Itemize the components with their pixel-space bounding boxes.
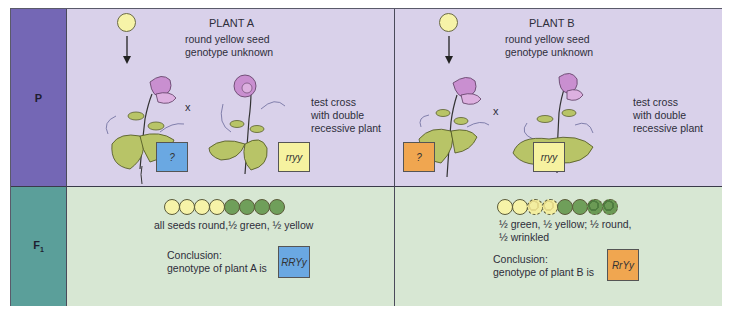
yellow-round-seed-icon <box>179 199 195 215</box>
plant-a-conclusion-2: genotype of plant A is <box>167 262 267 275</box>
yellow-round-seed-icon <box>209 199 225 215</box>
genotype-b-result-box: RrYy <box>607 249 639 281</box>
yellow-seed-icon <box>439 13 458 32</box>
green-round-seed-icon <box>269 199 285 215</box>
plant-a-f1-cell: all seeds round,½ green, ½ yellow Conclu… <box>67 186 394 306</box>
cross-symbol-a: x <box>185 101 191 114</box>
green-wrinkled-seed-icon <box>587 199 603 215</box>
yellow-wrinkled-seed-icon <box>542 199 558 215</box>
plant-a-title: PLANT A <box>209 17 254 30</box>
down-arrow-icon <box>444 36 454 66</box>
plant-b-test-1: test cross <box>633 96 678 109</box>
plant-b-test-2: with double <box>633 109 686 122</box>
row-label-f1: F1 <box>11 186 67 306</box>
f1-subscript: 1 <box>40 247 44 254</box>
plant-b-test-3: recessive plant <box>633 122 703 135</box>
plant-a-f1-seeds <box>164 199 284 215</box>
recessive-genotype-b-box: rryy <box>533 142 565 172</box>
plant-b-parent-cell: PLANT B round yellow seed genotype unkno… <box>394 9 722 186</box>
f1-letter: F <box>33 239 40 251</box>
plant-b-f1-result-2: ½ wrinkled <box>499 231 549 244</box>
plant-a-desc-1: round yellow seed <box>185 33 270 46</box>
plant-a-test-1: test cross <box>311 96 356 109</box>
yellow-round-seed-icon <box>497 199 513 215</box>
plant-a-parent-cell: PLANT A round yellow seed genotype unkno… <box>67 9 394 186</box>
plant-a-conclusion-1: Conclusion: <box>167 249 222 262</box>
plant-b-f1-result-1: ½ green, ½ yellow; ½ round, <box>499 218 632 231</box>
plant-a-test-3: recessive plant <box>311 122 381 135</box>
yellow-round-seed-icon <box>512 199 528 215</box>
green-round-seed-icon <box>224 199 240 215</box>
plant-b-desc-2: genotype unknown <box>505 46 593 59</box>
green-round-seed-icon <box>557 199 573 215</box>
down-arrow-icon <box>122 36 132 66</box>
plant-a-desc-2: genotype unknown <box>185 46 273 59</box>
plant-b-f1-cell: ½ green, ½ yellow; ½ round, ½ wrinkled C… <box>394 186 722 306</box>
plant-a-test-2: with double <box>311 109 364 122</box>
green-round-seed-icon <box>572 199 588 215</box>
parent-label-text: P <box>35 92 42 104</box>
green-round-seed-icon <box>254 199 270 215</box>
green-wrinkled-seed-icon <box>602 199 618 215</box>
unknown-genotype-a-box: ? <box>156 142 188 172</box>
plant-b-conclusion-1: Conclusion: <box>493 253 548 266</box>
yellow-seed-icon <box>117 13 136 32</box>
unknown-genotype-b-box: ? <box>403 142 435 172</box>
row-label-parent: P <box>11 9 67 186</box>
recessive-genotype-a-box: rryy <box>278 142 310 172</box>
yellow-round-seed-icon <box>164 199 180 215</box>
plant-b-conclusion-2: genotype of plant B is <box>493 266 594 279</box>
plant-a-f1-result: all seeds round,½ green, ½ yellow <box>154 219 313 232</box>
plant-b-f1-seeds <box>497 199 617 215</box>
plant-b-desc-1: round yellow seed <box>505 33 590 46</box>
green-round-seed-icon <box>239 199 255 215</box>
cross-symbol-b: x <box>493 105 499 118</box>
yellow-wrinkled-seed-icon <box>527 199 543 215</box>
test-cross-diagram: P F1 PLANT A round yellow seed genotype … <box>10 8 722 306</box>
f1-label-text: F1 <box>33 239 44 253</box>
genotype-a-result-box: RRYy <box>278 246 310 278</box>
yellow-round-seed-icon <box>194 199 210 215</box>
plant-b-title: PLANT B <box>529 17 575 30</box>
